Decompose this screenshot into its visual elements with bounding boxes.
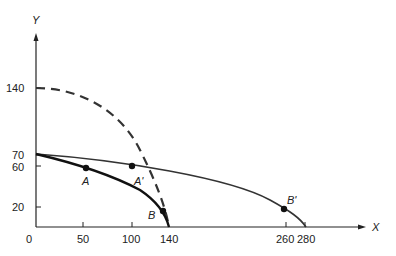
x-tick-label-260: 260 (276, 233, 294, 245)
y-tick-label-140: 140 (6, 82, 24, 94)
dashed-frontier-curve (36, 88, 169, 227)
y-tick-label-70: 70 (12, 149, 24, 161)
point-a (83, 165, 89, 171)
x-tick-label-50: 50 (77, 233, 89, 245)
y-axis-arrow-icon (34, 33, 39, 41)
chart-canvas (0, 0, 396, 256)
origin-label: 0 (26, 233, 32, 245)
y-tick-label-20: 20 (12, 201, 24, 213)
x-axis-arrow-icon (358, 225, 366, 230)
x-tick-label-140: 140 (160, 233, 178, 245)
x-tick-label-280: 280 (297, 233, 315, 245)
x-tick-label-100: 100 (122, 233, 140, 245)
point-a-prime (129, 163, 135, 169)
point-label-b-prime: B' (287, 194, 296, 206)
y-tick-label-60: 60 (12, 161, 24, 173)
point-label-a-prime: A' (134, 175, 143, 187)
point-label-b: B (148, 209, 155, 221)
point-b-prime (281, 206, 287, 212)
y-axis-label: Y (32, 14, 39, 26)
point-label-a: A (82, 175, 89, 187)
point-b (160, 208, 166, 214)
x-axis-label: X (372, 221, 379, 233)
